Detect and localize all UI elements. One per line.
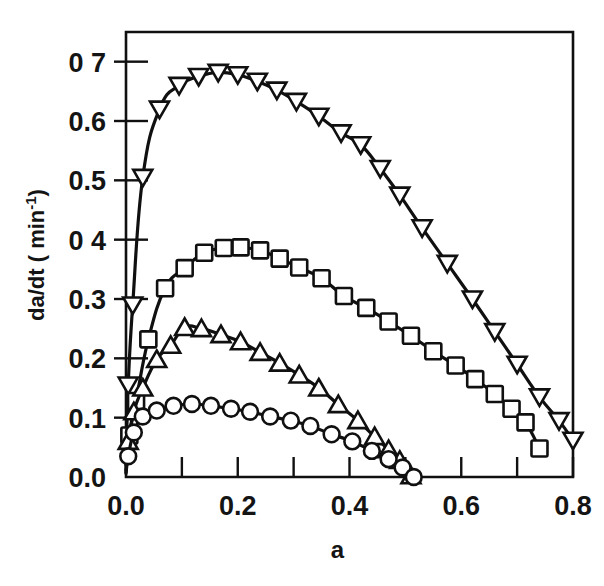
marker-triangle-down bbox=[267, 83, 286, 100]
marker-square bbox=[252, 242, 268, 258]
marker-circle bbox=[184, 396, 200, 412]
marker-triangle-up bbox=[161, 336, 180, 353]
y-tick-label: 0 4 bbox=[68, 226, 106, 256]
marker-triangle-down bbox=[463, 292, 482, 309]
marker-triangle-down bbox=[248, 74, 267, 91]
marker-square bbox=[140, 331, 156, 347]
marker-triangle-down bbox=[133, 170, 152, 187]
y-tick-label: 0.6 bbox=[68, 107, 106, 137]
marker-circle bbox=[262, 409, 278, 425]
y-axis-label-text: da/dt ( min-1) bbox=[22, 189, 49, 321]
y-axis-label-close: ) bbox=[24, 189, 49, 196]
marker-square bbox=[157, 280, 173, 296]
marker-square bbox=[425, 343, 441, 359]
marker-square bbox=[196, 245, 212, 261]
marker-circle bbox=[242, 404, 258, 420]
x-tick-label: 0.8 bbox=[554, 491, 592, 521]
marker-square bbox=[314, 270, 330, 286]
marker-square bbox=[272, 251, 288, 267]
marker-square bbox=[358, 300, 374, 316]
marker-circle bbox=[223, 401, 239, 417]
marker-circle bbox=[126, 425, 142, 441]
marker-triangle-down bbox=[508, 357, 527, 374]
marker-square bbox=[233, 239, 249, 255]
y-tick-label: 0.2 bbox=[68, 344, 106, 374]
marker-triangle-down bbox=[413, 220, 432, 237]
marker-circle bbox=[283, 413, 299, 429]
y-tick-label: 0.1 bbox=[68, 404, 106, 434]
marker-square bbox=[177, 260, 193, 276]
x-tick-label: 0.2 bbox=[219, 491, 257, 521]
marker-circle bbox=[364, 443, 380, 459]
figure-container: 0.00.10.20.30 40.50.60 7 0.00.20.40.60.8… bbox=[0, 0, 604, 586]
marker-triangle-down bbox=[564, 433, 583, 450]
marker-square bbox=[336, 288, 352, 304]
x-axis-label: a bbox=[331, 536, 345, 563]
marker-circle bbox=[203, 398, 219, 414]
x-axis-label-text: a bbox=[331, 536, 345, 563]
marker-square bbox=[381, 314, 397, 330]
marker-square bbox=[403, 328, 419, 344]
y-axis-label-exponent: -1 bbox=[22, 196, 39, 209]
x-axis-ticks: 0.00.20.40.60.8 bbox=[107, 457, 592, 521]
marker-triangle-down bbox=[485, 324, 504, 341]
marker-triangle-down bbox=[390, 188, 409, 205]
chart-canvas: 0.00.10.20.30 40.50.60 7 0.00.20.40.60.8… bbox=[0, 0, 604, 586]
marker-square bbox=[531, 441, 547, 457]
data-series-group bbox=[119, 65, 583, 485]
marker-square bbox=[216, 240, 232, 256]
marker-triangle-down bbox=[438, 256, 457, 273]
x-tick-label: 0.6 bbox=[442, 491, 480, 521]
marker-triangle-down bbox=[170, 78, 189, 95]
marker-square bbox=[448, 357, 464, 373]
marker-triangle-up bbox=[231, 333, 250, 350]
y-tick-label: 0.0 bbox=[68, 463, 106, 493]
marker-square bbox=[518, 414, 534, 430]
marker-circle bbox=[344, 434, 360, 450]
marker-circle bbox=[302, 418, 318, 434]
marker-square bbox=[291, 260, 307, 276]
marker-triangle-down bbox=[332, 125, 351, 142]
marker-square bbox=[467, 371, 483, 387]
marker-circle bbox=[120, 448, 136, 464]
y-tick-label: 0.5 bbox=[68, 166, 106, 196]
marker-circle bbox=[406, 469, 422, 485]
marker-circle bbox=[324, 426, 340, 442]
marker-triangle-down bbox=[287, 94, 306, 111]
marker-triangle-down bbox=[150, 102, 169, 119]
y-axis-label: da/dt ( min-1) bbox=[22, 189, 49, 321]
y-tick-label: 0 7 bbox=[68, 48, 106, 78]
marker-square bbox=[487, 386, 503, 402]
y-axis-label-main: da/dt ( min bbox=[24, 210, 49, 321]
x-tick-label: 0.0 bbox=[107, 491, 145, 521]
marker-triangle-up bbox=[290, 366, 309, 383]
x-tick-label: 0.4 bbox=[331, 491, 369, 521]
y-tick-label: 0.3 bbox=[68, 285, 106, 315]
marker-triangle-up bbox=[270, 354, 289, 371]
marker-circle bbox=[149, 403, 165, 419]
marker-circle bbox=[166, 398, 182, 414]
marker-triangle-up bbox=[251, 343, 270, 360]
